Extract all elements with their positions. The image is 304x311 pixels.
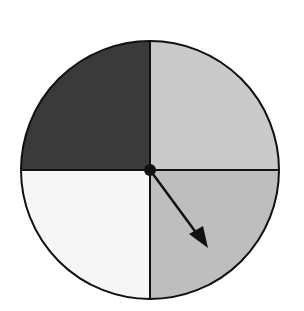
section-bottom-right	[150, 170, 279, 299]
section-top-left	[21, 41, 150, 170]
spinner-pivot	[144, 164, 156, 176]
section-top-right	[150, 41, 279, 170]
spinner-diagram	[0, 0, 304, 311]
section-bottom-left	[21, 170, 150, 299]
